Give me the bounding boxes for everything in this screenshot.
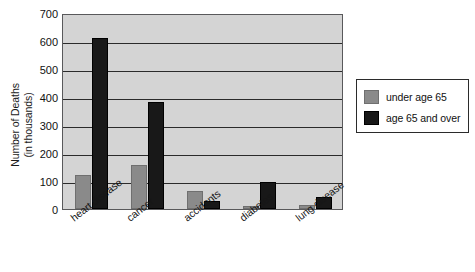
y-tick-label-600: 600 xyxy=(18,37,58,48)
bar-chart-figure: Number of Deaths (in thousands) 01002003… xyxy=(0,0,475,272)
bar-cancer-age-65-and-over xyxy=(148,102,164,209)
legend-item-under-age-65: under age 65 xyxy=(364,86,462,107)
legend-swatch-under-age-65 xyxy=(364,90,379,104)
y-tick-label-0: 0 xyxy=(18,205,58,216)
y-tick-label-300: 300 xyxy=(18,121,58,132)
y-tick-label-700: 700 xyxy=(18,9,58,20)
legend-label-under-age-65: under age 65 xyxy=(386,91,447,103)
legend-item-age-65-and-over: age 65 and over xyxy=(364,107,462,128)
y-tick-label-400: 400 xyxy=(18,93,58,104)
y-tick-label-100: 100 xyxy=(18,177,58,188)
y-tick-label-500: 500 xyxy=(18,65,58,76)
legend-swatch-age-65-and-over xyxy=(364,111,379,125)
legend-label-age-65-and-over: age 65 and over xyxy=(386,112,460,124)
legend: under age 65 age 65 and over xyxy=(356,79,469,133)
y-tick-label-200: 200 xyxy=(18,149,58,160)
plot-area xyxy=(62,14,343,210)
